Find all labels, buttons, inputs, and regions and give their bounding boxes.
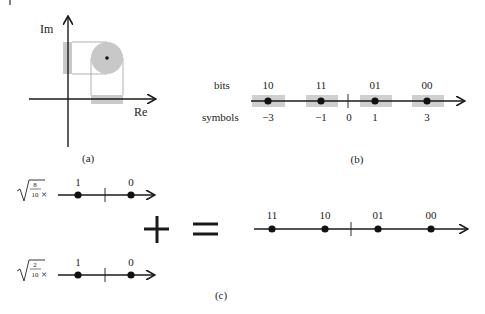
top-point: [74, 191, 81, 198]
result-point: [321, 225, 328, 232]
top-point: [127, 191, 134, 198]
symbol-value: −3: [262, 111, 274, 123]
result-point: [427, 225, 434, 232]
origin-value: 0: [346, 111, 352, 123]
panel-b-4pam: bits symbols 10 11 01 00 −3 −1 0 1 3 (b): [202, 79, 464, 166]
bottom-bit-label: 1: [75, 256, 81, 268]
bottom-point: [74, 271, 81, 278]
bits-label: 11: [316, 79, 327, 91]
result-bits-label: 01: [373, 209, 384, 221]
bits-row-label: bits: [214, 79, 230, 91]
bits-label: 01: [370, 79, 381, 91]
panel-c-superposition: 8 10 × 1 0 2 10 × 1 0: [17, 176, 467, 302]
top-scale-factor: 8 10 ×: [17, 180, 47, 201]
constellation-point: [105, 56, 109, 60]
fraction-numerator: 2: [33, 261, 37, 269]
top-bit-label: 1: [75, 176, 81, 188]
result-point: [268, 225, 275, 232]
bottom-scale-factor: 2 10 ×: [17, 260, 47, 281]
symbol-point: [371, 97, 378, 104]
fraction-denominator: 10: [32, 271, 40, 279]
caption-b: (b): [351, 153, 364, 166]
symbol-value: 3: [424, 111, 430, 123]
bits-label: 10: [263, 79, 275, 91]
bits-label: 00: [422, 79, 434, 91]
fraction-denominator: 10: [32, 191, 40, 199]
equals-sign: [193, 224, 218, 234]
top-bit-label: 0: [128, 176, 134, 188]
symbol-value: 1: [372, 111, 378, 123]
result-point: [374, 225, 381, 232]
bottom-bit-label: 0: [128, 256, 134, 268]
caption-c: (c): [215, 289, 228, 302]
bottom-point: [127, 271, 134, 278]
panel-a-complex-plane: Im Re (a): [29, 17, 155, 165]
symbol-value: −1: [315, 111, 327, 123]
caption-a: (a): [82, 152, 95, 165]
result-bits-label: 11: [267, 209, 278, 221]
fraction-numerator: 8: [33, 181, 37, 189]
result-bits-label: 10: [320, 209, 332, 221]
symbol-point: [423, 97, 430, 104]
times-sign: ×: [41, 268, 47, 280]
symbol-point: [264, 97, 271, 104]
re-label: Re: [134, 105, 147, 119]
plus-sign: [144, 216, 169, 243]
times-sign: ×: [41, 188, 47, 200]
figure-canvas: Im Re (a) bits symbols 10 11 01 00 −3 −1…: [0, 0, 485, 314]
symbol-point: [317, 97, 324, 104]
symbols-row-label: symbols: [202, 111, 239, 123]
result-bits-label: 00: [426, 209, 438, 221]
im-label: Im: [40, 22, 54, 36]
